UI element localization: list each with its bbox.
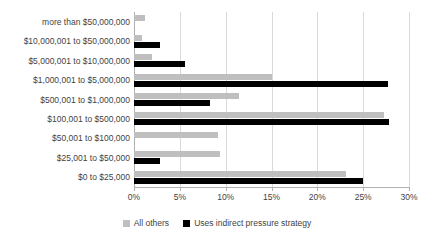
x-axis-tick — [134, 187, 135, 191]
bar — [134, 100, 210, 106]
bar-chart: more than $50,000,000 $10,000,001 to $50… — [0, 0, 434, 242]
bar — [134, 112, 384, 118]
bar-group — [134, 148, 409, 167]
bar — [134, 178, 363, 184]
bar — [134, 93, 239, 99]
category-label: $500,001 to $1,000,000 — [40, 95, 130, 105]
x-axis-tick-label: 5% — [174, 192, 186, 203]
bar — [134, 119, 389, 125]
bar-group — [134, 109, 409, 128]
x-axis-tick — [272, 187, 273, 191]
bar — [134, 42, 160, 48]
x-axis-tick — [226, 187, 227, 191]
chart-legend: All others Uses indirect pressure strate… — [0, 218, 434, 228]
x-axis-tick — [409, 187, 410, 191]
category-label: $5,000,001 to $10,000,000 — [28, 56, 130, 66]
bar-group — [134, 31, 409, 50]
legend-swatch-icon — [123, 220, 130, 227]
bar — [134, 74, 272, 80]
x-axis-tick-label: 0% — [128, 192, 140, 203]
category-label: $100,001 to $500,000 — [47, 114, 130, 124]
category-label: $25,001 to $50,000 — [57, 153, 130, 163]
bar — [134, 35, 142, 41]
legend-swatch-icon — [183, 220, 190, 227]
bar — [134, 158, 160, 164]
bar — [134, 15, 145, 21]
x-axis-tick-label: 20% — [309, 192, 326, 203]
x-axis-tick-label: 30% — [400, 192, 417, 203]
bar-group — [134, 168, 409, 187]
gridline — [409, 12, 410, 187]
legend-label: Uses indirect pressure strategy — [194, 218, 311, 228]
legend-item-indirect-pressure: Uses indirect pressure strategy — [183, 218, 311, 228]
plot-area — [134, 12, 409, 187]
x-axis-tick — [363, 187, 364, 191]
category-label: more than $50,000,000 — [42, 17, 130, 27]
bar — [134, 81, 388, 87]
category-label: $50,001 to $100,000 — [52, 133, 130, 143]
legend-label: All others — [134, 218, 169, 228]
bar-group — [134, 12, 409, 31]
category-label: $10,000,001 to $50,000,000 — [24, 36, 130, 46]
category-axis-labels: more than $50,000,000 $10,000,001 to $50… — [0, 12, 130, 187]
x-axis-tick — [317, 187, 318, 191]
bar-group — [134, 90, 409, 109]
bar — [134, 54, 152, 60]
category-label: $0 to $25,000 — [78, 172, 130, 182]
x-axis-tick-label: 15% — [263, 192, 280, 203]
bar — [134, 132, 218, 138]
legend-item-all-others: All others — [123, 218, 169, 228]
x-axis-tick-label: 10% — [217, 192, 234, 203]
bar — [134, 61, 185, 67]
bar — [134, 171, 346, 177]
bar-group — [134, 51, 409, 70]
bar-group — [134, 70, 409, 89]
x-axis-tick-label: 25% — [355, 192, 372, 203]
x-axis-tick — [180, 187, 181, 191]
bar — [134, 151, 220, 157]
category-label: $1,000,001 to $5,000,000 — [33, 75, 130, 85]
bar-rows — [134, 12, 409, 187]
bar-group — [134, 129, 409, 148]
